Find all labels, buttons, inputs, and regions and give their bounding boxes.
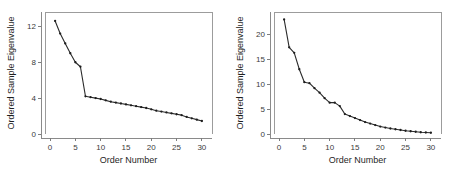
data-point bbox=[165, 111, 167, 113]
data-point bbox=[359, 119, 361, 121]
y-tick-label: 15 bbox=[256, 55, 265, 64]
x-tick-label: 25 bbox=[172, 143, 181, 152]
data-point bbox=[125, 103, 127, 105]
data-point bbox=[105, 99, 107, 101]
y-tick-label: 0 bbox=[261, 130, 266, 139]
y-tick-label: 10 bbox=[256, 80, 265, 89]
series-line bbox=[55, 21, 202, 121]
chart-panel-right: 05101520253005101520Order NumberOrdered … bbox=[229, 0, 458, 169]
data-point bbox=[430, 132, 432, 134]
data-point bbox=[298, 68, 300, 70]
plot-frame bbox=[274, 12, 441, 134]
chart-panel-left: 05101520253004812Order NumberOrdered Sam… bbox=[0, 0, 229, 169]
data-point bbox=[283, 18, 285, 20]
data-point bbox=[94, 97, 96, 99]
x-tick-label: 0 bbox=[48, 143, 53, 152]
y-tick-label: 12 bbox=[27, 22, 36, 31]
data-point bbox=[389, 127, 391, 129]
data-point bbox=[180, 114, 182, 116]
data-point bbox=[394, 128, 396, 130]
x-tick-label: 5 bbox=[73, 143, 78, 152]
data-point bbox=[74, 61, 76, 63]
data-point bbox=[145, 107, 147, 109]
scree-plot-right-svg: 05101520253005101520Order NumberOrdered … bbox=[229, 0, 458, 169]
data-point bbox=[415, 131, 417, 133]
x-tick-label: 15 bbox=[122, 143, 131, 152]
data-point bbox=[170, 112, 172, 114]
data-point bbox=[379, 125, 381, 127]
data-point bbox=[155, 110, 157, 112]
data-point bbox=[374, 124, 376, 126]
data-point bbox=[308, 82, 310, 84]
scree-plot-figure: 05101520253004812Order NumberOrdered Sam… bbox=[0, 0, 458, 169]
x-axis-title: Order Number bbox=[100, 155, 158, 165]
series-line bbox=[284, 19, 431, 132]
x-tick-label: 20 bbox=[147, 143, 156, 152]
data-point bbox=[160, 110, 162, 112]
data-point bbox=[196, 119, 198, 121]
data-point bbox=[369, 122, 371, 124]
data-point bbox=[344, 113, 346, 115]
data-point bbox=[89, 96, 91, 98]
data-point bbox=[318, 92, 320, 94]
x-tick-label: 5 bbox=[302, 143, 307, 152]
scree-plot-left-svg: 05101520253004812Order NumberOrdered Sam… bbox=[0, 0, 229, 169]
x-tick-label: 0 bbox=[277, 143, 282, 152]
data-point bbox=[364, 121, 366, 123]
data-point bbox=[120, 102, 122, 104]
data-point bbox=[110, 101, 112, 103]
data-point bbox=[175, 113, 177, 115]
data-point bbox=[54, 20, 56, 22]
y-tick-label: 0 bbox=[32, 130, 37, 139]
data-point bbox=[399, 129, 401, 131]
data-point bbox=[64, 42, 66, 44]
data-point bbox=[288, 46, 290, 48]
data-point bbox=[323, 97, 325, 99]
y-axis-title: Ordered Sample Eigenvalue bbox=[6, 16, 16, 129]
x-tick-label: 30 bbox=[426, 143, 435, 152]
x-tick-label: 15 bbox=[351, 143, 360, 152]
data-point bbox=[69, 52, 71, 54]
data-point bbox=[384, 126, 386, 128]
x-tick-label: 10 bbox=[325, 143, 334, 152]
data-point bbox=[404, 130, 406, 132]
data-point bbox=[186, 116, 188, 118]
x-tick-label: 10 bbox=[96, 143, 105, 152]
plot-frame bbox=[45, 12, 212, 134]
y-tick-label: 20 bbox=[256, 30, 265, 39]
data-point bbox=[84, 95, 86, 97]
data-point bbox=[293, 52, 295, 54]
y-tick-label: 5 bbox=[261, 105, 266, 114]
data-point bbox=[425, 131, 427, 133]
data-point bbox=[150, 108, 152, 110]
data-point bbox=[334, 101, 336, 103]
y-tick-label: 4 bbox=[32, 94, 37, 103]
data-point bbox=[59, 32, 61, 34]
data-point bbox=[135, 105, 137, 107]
y-tick-label: 8 bbox=[32, 58, 37, 67]
data-point bbox=[409, 130, 411, 132]
x-tick-label: 30 bbox=[197, 143, 206, 152]
data-point bbox=[354, 117, 356, 119]
data-point bbox=[130, 104, 132, 106]
data-point bbox=[140, 106, 142, 108]
data-point bbox=[303, 81, 305, 83]
data-point bbox=[191, 117, 193, 119]
x-tick-label: 25 bbox=[401, 143, 410, 152]
data-point bbox=[79, 66, 81, 68]
data-point bbox=[100, 98, 102, 100]
x-axis-title: Order Number bbox=[329, 155, 387, 165]
x-tick-label: 20 bbox=[376, 143, 385, 152]
data-point bbox=[420, 131, 422, 133]
data-point bbox=[329, 101, 331, 103]
data-point bbox=[313, 87, 315, 89]
y-axis-title: Ordered Sample Eigenvalue bbox=[235, 16, 245, 129]
data-point bbox=[201, 120, 203, 122]
data-point bbox=[349, 115, 351, 117]
data-point bbox=[339, 105, 341, 107]
data-point bbox=[115, 101, 117, 103]
